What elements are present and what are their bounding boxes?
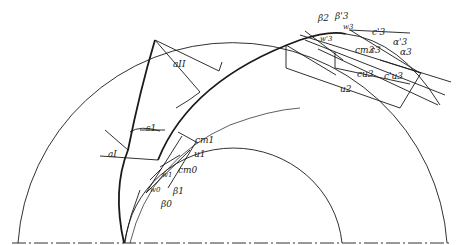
label-alpha3-prime: α'3 xyxy=(393,38,407,47)
label-u2: u2 xyxy=(340,85,352,94)
label-c3-prime: c'3 xyxy=(372,28,385,37)
label-beta0: β0 xyxy=(161,200,172,209)
label-w1: w1 xyxy=(162,172,172,179)
label-cu3: cu3 xyxy=(357,70,374,79)
label-u1: u1 xyxy=(194,150,206,159)
label-s1: s1 xyxy=(146,124,156,133)
label-w3: w3 xyxy=(343,24,353,31)
label-a-i: aI xyxy=(108,150,117,159)
inner-circle xyxy=(125,148,342,243)
label-cu3-prime: c'u3 xyxy=(384,72,403,81)
label-a-ii: aII xyxy=(173,60,185,69)
label-cm0: cm0 xyxy=(178,166,197,175)
label-w3-prime: w'3 xyxy=(320,36,332,43)
label-beta1: β1 xyxy=(173,187,184,196)
label-w0: w0 xyxy=(150,187,160,194)
label-cm3: cm3 xyxy=(355,46,374,55)
blade-right xyxy=(158,33,346,160)
label-alpha3: α3 xyxy=(400,48,412,57)
blade-left xyxy=(119,40,155,243)
label-cm1: cm1 xyxy=(195,136,214,145)
diagram-drawing xyxy=(0,0,461,245)
label-beta2: β2 xyxy=(318,14,329,23)
impeller-diagram: aII aI s1 cm1 u1 cm0 w1 w0 β1 β0 β2 β'3 … xyxy=(0,0,461,245)
label-beta3-prime: β'3 xyxy=(335,12,348,21)
